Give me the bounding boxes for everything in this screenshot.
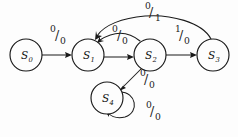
arrowhead-s1-s2 [127, 54, 134, 60]
edge-s2-to-s3 [166, 52, 197, 58]
edge-s2-to-s4 [119, 69, 141, 91]
edge-label-s4-self-output: 0 [155, 111, 161, 122]
edge-label-s1-s2: 0 / 0 [112, 23, 128, 46]
state-node-s1[interactable]: S 1 [72, 39, 104, 71]
slash-icon: / [149, 5, 154, 20]
state-label-s3: S [208, 49, 215, 61]
state-label-s2: S [145, 49, 152, 61]
arrowhead-s0-s1 [65, 52, 72, 58]
state-subscript-s0: 0 [29, 56, 34, 64]
arrowhead-s3-s1-arc [95, 31, 102, 40]
edge-label-s0-s1: 0 / 0 [50, 23, 66, 46]
state-diagram-canvas: S 0 S 1 S 2 S 3 S 4 0 / 0 [0, 0, 238, 137]
state-label-s0: S [21, 49, 28, 61]
state-subscript-s4: 4 [109, 99, 114, 107]
edge-label-s2-s4-output: 0 [149, 79, 155, 90]
edge-label-s3-s1-arc: 0 / 1 [145, 0, 161, 23]
state-label-s4: S [102, 92, 109, 104]
state-node-s2[interactable]: S 2 [134, 39, 166, 71]
arrowhead-s2-s3 [190, 52, 197, 58]
state-node-s0[interactable]: S 0 [10, 39, 42, 71]
state-node-s4[interactable]: S 4 [91, 82, 123, 114]
state-subscript-s3: 3 [216, 56, 220, 64]
edge-s0-to-s1 [42, 52, 72, 58]
state-node-s3[interactable]: S 3 [197, 39, 229, 71]
edge-label-s2-s3-output: 0 [184, 35, 190, 46]
edge-s1-to-s2 [104, 54, 134, 60]
state-subscript-s2: 2 [152, 56, 157, 64]
edge-label-s1-s2-output: 0 [122, 35, 128, 46]
edge-label-s3-s1-output: 1 [155, 12, 161, 23]
state-label-s1: S [83, 49, 90, 61]
edge-label-s0-s1-output: 0 [60, 35, 66, 46]
edge-label-s2-s3: 1 / 0 [175, 23, 190, 46]
state-subscript-s1: 1 [91, 56, 95, 64]
edge-label-s4-self: 0 / 0 [146, 99, 161, 122]
